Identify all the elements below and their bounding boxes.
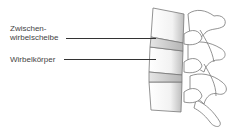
facet-joints bbox=[184, 31, 202, 103]
leader-line-disc bbox=[66, 38, 156, 39]
leader-line-vertebral-body bbox=[64, 59, 156, 60]
label-vertebral-body: Wirbelkörper bbox=[10, 55, 55, 64]
vertebra-3 bbox=[149, 82, 182, 112]
label-intervertebral-disc: Zwischen- wirbelscheibe bbox=[10, 24, 80, 42]
vertebral-bodies bbox=[149, 8, 184, 112]
vertebra-2 bbox=[149, 47, 183, 75]
spine-illustration bbox=[0, 0, 240, 132]
label-line-1: Zwischen- bbox=[10, 24, 80, 33]
